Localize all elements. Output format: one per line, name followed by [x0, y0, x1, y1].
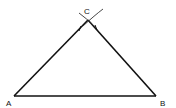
triangle-diagram: A B C [0, 0, 176, 108]
side-bc [88, 20, 156, 96]
vertex-label-c: C [84, 7, 90, 16]
vertex-label-b: B [160, 99, 165, 108]
vertex-label-a: A [6, 99, 12, 108]
side-ac [14, 20, 88, 96]
